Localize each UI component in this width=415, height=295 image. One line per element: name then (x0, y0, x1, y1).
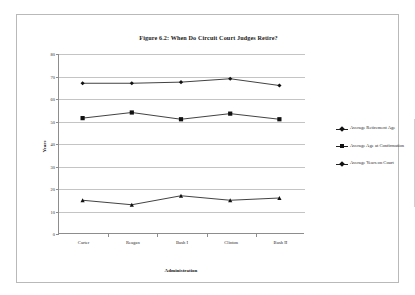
data-point-marker (277, 117, 281, 121)
x-tick-mark (108, 234, 109, 237)
chart-title: Figure 6.2: When Do Circuit Court Judges… (17, 34, 400, 41)
x-tick-mark (256, 234, 257, 237)
data-point-marker (81, 81, 85, 85)
y-tick-label: 0 (53, 232, 55, 237)
legend-dot (340, 144, 344, 148)
legend-marker-icon (336, 143, 348, 150)
data-point-marker (179, 80, 183, 84)
legend-marker-icon (336, 161, 348, 168)
data-point-marker (130, 81, 134, 85)
legend-item[interactable]: Average Retirement Age (336, 125, 414, 133)
legend-item[interactable]: Average Age at Confirmation (336, 143, 414, 151)
page-canvas: Figure 6.2: When Do Circuit Court Judges… (0, 0, 415, 295)
chart-legend: Average Retirement AgeAverage Age at Con… (336, 125, 414, 178)
y-tick-label: 10 (51, 209, 55, 214)
y-tick-mark (56, 234, 59, 235)
data-point-marker (130, 110, 134, 114)
y-tick-label: 60 (51, 97, 55, 102)
series-layer (58, 54, 304, 234)
y-tick-label: 80 (51, 52, 55, 57)
data-point-marker (277, 83, 281, 87)
y-tick-label: 40 (51, 142, 55, 147)
x-axis-title: Administration (58, 268, 304, 273)
y-tick-label: 50 (51, 119, 55, 124)
data-point-marker (228, 112, 232, 116)
legend-label: Average Retirement Age (348, 125, 395, 131)
x-tick-label: Bush II (274, 240, 288, 245)
data-point-marker (228, 77, 232, 81)
legend-dot (339, 161, 345, 167)
x-tick-mark (157, 234, 158, 237)
x-tick-label: Carter (78, 240, 89, 245)
legend-dot (339, 126, 345, 132)
document-frame: Figure 6.2: When Do Circuit Court Judges… (16, 14, 399, 283)
y-axis-title: Years (42, 141, 47, 153)
legend-marker-icon (336, 126, 348, 133)
legend-label: Average Age at Confirmation (348, 143, 404, 149)
x-tick-mark (207, 234, 208, 237)
x-tick-label: Clinton (224, 240, 238, 245)
legend-item[interactable]: Average Years on Court (336, 160, 414, 168)
legend-label: Average Years on Court (348, 160, 394, 166)
data-point-marker (81, 116, 85, 120)
x-tick-label: Reagan (126, 240, 140, 245)
x-tick-label: Bush I (176, 240, 188, 245)
y-tick-label: 30 (51, 164, 55, 169)
y-tick-label: 20 (51, 187, 55, 192)
data-point-marker (179, 117, 183, 121)
y-tick-label: 70 (51, 74, 55, 79)
